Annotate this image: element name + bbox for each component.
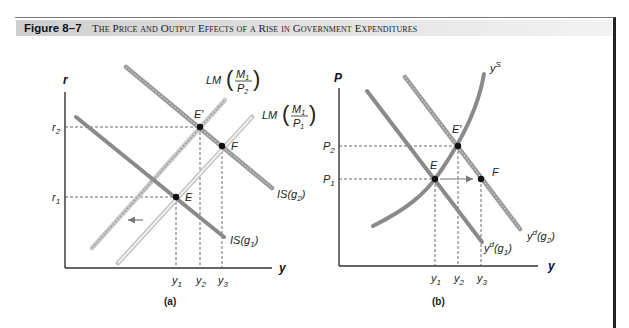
- point-e: [173, 194, 179, 200]
- panel-b-caption: (b): [432, 296, 445, 307]
- svg-text:y2: y2: [453, 272, 465, 287]
- point-e-prime: [197, 124, 203, 130]
- panel-a: r y E E′ F r2 r1 y1 y2: [52, 66, 316, 307]
- point-e-b: [432, 176, 438, 182]
- ys-curve: [373, 74, 484, 226]
- panel-a-caption: (a): [164, 296, 176, 307]
- ys-label: yS: [489, 60, 502, 74]
- panel-b: P y E E′ F P2 P1 y1 y2 y3 yS yd(g2) yd(g…: [323, 60, 556, 307]
- svg-text:F: F: [231, 140, 239, 152]
- is-g1-label: IS(g1): [230, 234, 259, 249]
- svg-text:y3: y3: [476, 272, 488, 287]
- svg-text:y3: y3: [217, 274, 229, 289]
- svg-text:E′: E′: [194, 108, 204, 120]
- guide-lines: [65, 127, 222, 268]
- svg-text:M1: M1: [292, 103, 305, 116]
- r-axis-label: r: [63, 73, 69, 87]
- yd-g1-label: yd(g1): [483, 240, 512, 257]
- svg-text:y1: y1: [430, 272, 441, 287]
- svg-text:r1: r1: [52, 191, 60, 206]
- svg-text:r2: r2: [52, 121, 61, 136]
- point-f-b: [478, 176, 484, 182]
- svg-text:E: E: [185, 191, 193, 203]
- svg-text:M1: M1: [236, 68, 249, 81]
- svg-text:P1: P1: [293, 117, 304, 130]
- svg-text:P2: P2: [323, 140, 335, 155]
- yd-g2-label: yd(g2): [526, 228, 555, 245]
- lm-p1-label: LM: [262, 109, 278, 121]
- svg-text:E: E: [430, 159, 438, 171]
- svg-text:P1: P1: [323, 173, 335, 188]
- is-g1-curve: [76, 117, 224, 237]
- svg-text:y2: y2: [195, 274, 207, 289]
- svg-text:y1: y1: [171, 274, 182, 289]
- lm-p2-label: LM: [206, 74, 222, 86]
- svg-text:(: (: [282, 101, 290, 126]
- svg-text:F: F: [492, 166, 500, 178]
- svg-text:): ): [309, 101, 316, 126]
- svg-text:P2: P2: [237, 82, 248, 95]
- y-axis-label: y: [278, 261, 287, 275]
- svg-text:): ): [253, 66, 260, 91]
- y-axis-label-b: y: [547, 259, 556, 273]
- p-axis-label: P: [334, 71, 343, 85]
- is-g2-label: IS(g2): [277, 188, 306, 203]
- point-e-prime-b: [455, 143, 461, 149]
- svg-text:(: (: [226, 66, 234, 91]
- point-f: [219, 143, 225, 149]
- svg-text:E′: E′: [452, 123, 462, 135]
